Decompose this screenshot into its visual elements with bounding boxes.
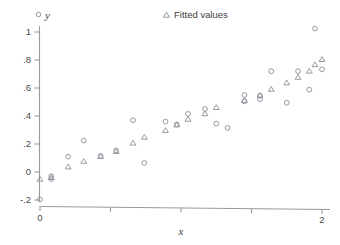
data-point-triangle	[163, 128, 169, 133]
data-point-circle	[186, 112, 191, 117]
series-observed	[38, 26, 325, 202]
series-fitted	[37, 57, 325, 182]
y-axis-tick-labels: -.20.2.4.6.81	[20, 26, 31, 205]
y-tick-label: .6	[23, 82, 31, 93]
y-tick-label: .2	[23, 138, 31, 149]
x-tick-label: 0	[37, 212, 42, 223]
legend-triangle-marker	[163, 12, 169, 17]
x-axis-title: x	[178, 225, 184, 237]
data-point-circle	[296, 69, 301, 74]
plot-canvas: -.20.2.4.6.81 02 y Fitted values x	[0, 0, 340, 245]
data-point-circle	[142, 161, 147, 166]
y-tick-label: .8	[23, 54, 31, 65]
data-point-triangle	[268, 87, 274, 92]
data-point-circle	[131, 118, 136, 123]
scatter-plot-figure: -.20.2.4.6.81 02 y Fitted values x	[0, 0, 340, 245]
data-point-triangle	[319, 57, 325, 62]
data-series-group	[37, 26, 325, 202]
data-point-triangle	[65, 164, 71, 169]
data-point-circle	[163, 119, 168, 124]
y-tick-label: .4	[23, 110, 31, 121]
y-tick-label: 0	[26, 166, 31, 177]
axes-group	[40, 26, 331, 210]
data-point-circle	[307, 87, 312, 92]
x-axis-line	[40, 207, 331, 210]
data-point-triangle	[213, 105, 219, 110]
data-point-triangle	[202, 111, 208, 116]
y-tick-label: -.2	[20, 194, 31, 205]
chart-legend: y Fitted values	[36, 9, 228, 21]
data-point-triangle	[284, 80, 290, 85]
data-point-circle	[66, 154, 71, 159]
y-axis-ticks	[35, 32, 40, 200]
legend-fitted-values-label: Fitted values	[174, 9, 228, 20]
data-point-circle	[242, 93, 247, 98]
data-point-triangle	[141, 134, 147, 139]
data-point-triangle	[295, 74, 301, 79]
data-point-triangle	[130, 140, 136, 145]
data-point-triangle	[185, 116, 191, 121]
x-axis-tick-labels: 02	[37, 212, 324, 226]
data-point-triangle	[81, 158, 87, 163]
legend-circle-marker	[36, 12, 41, 17]
data-point-triangle	[306, 68, 312, 73]
data-point-circle	[81, 138, 86, 143]
legend-y-label: y	[44, 9, 50, 21]
data-point-circle	[313, 26, 318, 31]
data-point-triangle	[312, 62, 318, 67]
data-point-circle	[214, 121, 219, 126]
data-point-circle	[320, 67, 325, 72]
data-point-circle	[269, 69, 274, 74]
x-tick-label: 2	[319, 214, 324, 225]
data-point-circle	[284, 100, 289, 105]
y-tick-label: 1	[26, 26, 31, 37]
data-point-circle	[225, 126, 230, 131]
